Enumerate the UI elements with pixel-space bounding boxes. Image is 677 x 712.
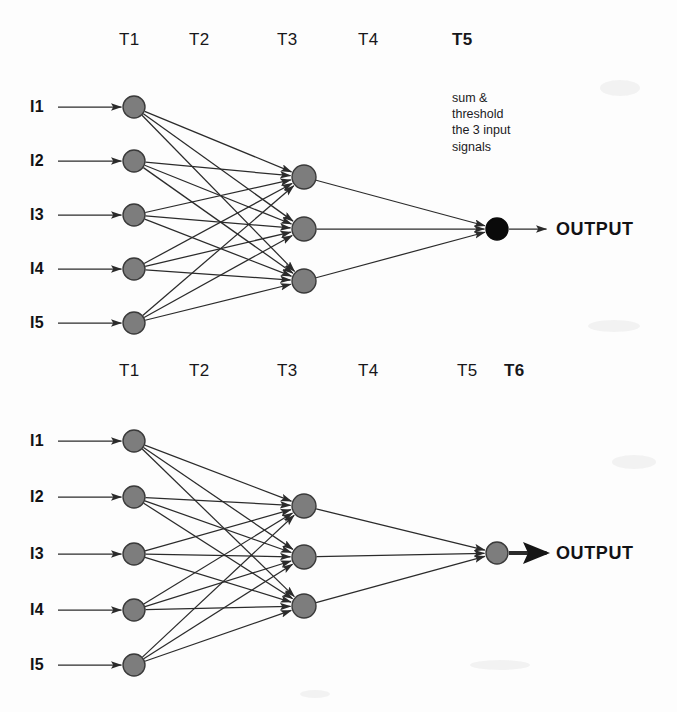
edge-i1-h1 xyxy=(145,111,292,171)
input-node-4[interactable] xyxy=(123,599,145,621)
input-node-5[interactable] xyxy=(123,654,145,676)
time-label-t4-d2: T4 xyxy=(358,361,378,381)
edge-i2-h3 xyxy=(143,168,293,274)
input-node-5[interactable] xyxy=(123,312,145,334)
time-label-t1-d2: T1 xyxy=(119,361,139,381)
edge-h1-out xyxy=(316,180,485,225)
input-node-1[interactable] xyxy=(123,96,145,118)
input-node-2[interactable] xyxy=(123,150,145,172)
edge-h3-out xyxy=(316,556,485,602)
hidden-node-1[interactable] xyxy=(292,494,316,518)
input-label-i5-d2: I5 xyxy=(30,656,44,674)
diagram-canvas: T1T2T3T4T5I1I2I3I4I5OUTPUTsum & threshol… xyxy=(0,0,677,712)
input-label-i1-d1: I1 xyxy=(30,98,44,116)
hidden-node-2[interactable] xyxy=(292,217,316,241)
scan-speck xyxy=(600,80,640,96)
edge-i5-h3 xyxy=(145,610,291,661)
output-node[interactable] xyxy=(486,542,508,564)
input-node-3[interactable] xyxy=(123,204,145,226)
edge-i4-h3 xyxy=(145,606,290,609)
input-node-2[interactable] xyxy=(123,486,145,508)
edge-h1-out xyxy=(316,509,485,550)
scan-speck xyxy=(612,455,656,469)
edge-i4-h3 xyxy=(145,270,290,280)
time-label-t6-d2: T6 xyxy=(504,361,524,381)
input-node-1[interactable] xyxy=(123,430,145,452)
edge-h2-out xyxy=(316,553,484,556)
edge-i5-h2 xyxy=(144,564,293,659)
input-node-4[interactable] xyxy=(123,258,145,280)
input-label-i5-d1: I5 xyxy=(30,314,44,332)
input-label-i2-d2: I2 xyxy=(30,488,44,506)
time-label-t3-d1: T3 xyxy=(277,30,297,50)
scan-speck xyxy=(300,690,330,698)
input-label-i4-d1: I4 xyxy=(30,260,44,278)
time-label-t5-d1: T5 xyxy=(452,30,472,50)
input-label-i3-d2: I3 xyxy=(30,545,44,563)
time-label-t2-d1: T2 xyxy=(189,30,209,50)
scan-speck xyxy=(588,320,640,332)
input-label-i1-d2: I1 xyxy=(30,432,44,450)
network-graphics xyxy=(0,0,677,712)
hidden-node-3[interactable] xyxy=(292,269,316,293)
edge-i4-h2 xyxy=(145,232,291,266)
time-label-t5-d2: T5 xyxy=(457,361,477,381)
time-label-t3-d2: T3 xyxy=(277,361,297,381)
scan-speck xyxy=(470,660,530,670)
edge-i5-h1 xyxy=(143,186,294,316)
time-label-t2-d2: T2 xyxy=(189,361,209,381)
time-label-t1-d1: T1 xyxy=(119,30,139,50)
input-node-3[interactable] xyxy=(123,543,145,565)
hidden-node-3[interactable] xyxy=(292,594,316,618)
edge-h3-out xyxy=(316,232,485,277)
edge-i3-h2 xyxy=(145,216,290,228)
hidden-node-2[interactable] xyxy=(292,545,316,569)
edge-i1-h3 xyxy=(142,449,294,597)
input-label-i3-d1: I3 xyxy=(30,206,44,224)
output-label-d1: OUTPUT xyxy=(556,219,634,240)
output-label-d2: OUTPUT xyxy=(556,543,634,564)
output-node[interactable] xyxy=(486,218,508,240)
input-label-i4-d2: I4 xyxy=(30,601,44,619)
edge-i5-h3 xyxy=(145,284,291,320)
hidden-node-1[interactable] xyxy=(292,165,316,189)
sum-threshold-annotation: sum & threshold the 3 input signals xyxy=(452,90,510,155)
input-label-i2-d1: I2 xyxy=(30,152,44,170)
time-label-t4-d1: T4 xyxy=(358,30,378,50)
edge-i3-h2 xyxy=(145,554,290,557)
